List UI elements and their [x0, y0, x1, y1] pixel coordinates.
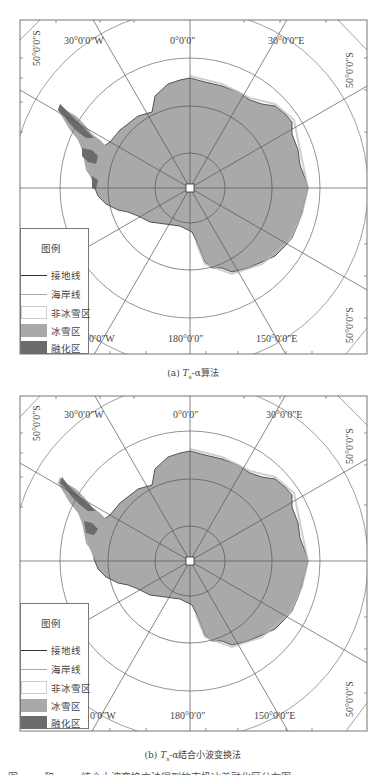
legend-item-ice: 冰雪区: [21, 698, 121, 712]
ice-swatch: [21, 324, 47, 337]
label-lon-30e: 30°0′0″E: [266, 410, 302, 420]
caption-b: (b) Ts-α结合小波变换法: [0, 748, 386, 762]
label-lat-50s-left: 50°0′0″S: [32, 405, 42, 441]
label-lon-0: 0°0′0″: [173, 410, 198, 420]
legend-title: 图例: [41, 241, 61, 255]
label-lon-30e: 30°0′0″E: [268, 36, 304, 46]
coastline-symbol: [21, 287, 47, 295]
label-lat-50s-bottom-right: 50°0′0″S: [345, 681, 355, 717]
label-lon-150e: 150°0′0″E: [254, 711, 295, 721]
label-lat-50s-bottom-right: 50°0′0″S: [345, 307, 355, 343]
coastline-symbol: [21, 662, 47, 670]
ice-swatch: [21, 699, 47, 712]
figure-a: 30°0′0″W 0°0′0″ 30°0′0″E 50°0′0″S 50°0′0…: [0, 0, 386, 380]
legend-item-melt: 融化区: [21, 340, 121, 354]
label-lon-0: 0°0′0″: [170, 36, 195, 46]
legend-title: 图例: [41, 616, 61, 630]
melt-swatch: [21, 341, 47, 354]
grounding-line-symbol: [21, 268, 47, 276]
label-lat-50s-right: 50°0′0″S: [345, 52, 355, 88]
legend-item-non-ice: 非冰雪区: [21, 680, 121, 694]
legend-item-coastline: 海岸线: [21, 286, 121, 300]
legend-item-grounding-line: 接地线: [21, 642, 121, 656]
legend-item-ice: 冰雪区: [21, 323, 121, 337]
melt-swatch: [21, 716, 47, 729]
grounding-line-symbol: [21, 643, 47, 651]
label-lon-30w: 30°0′0″W: [64, 36, 104, 46]
label-lat-50s-left: 50°0′0″S: [32, 30, 42, 66]
label-lon-180: 180°0′0″: [170, 711, 205, 721]
legend-item-coastline: 海岸线: [21, 661, 121, 675]
legend-a: 图例 接地线 海岸线 非冰雪区 冰雪区 融化区: [20, 228, 89, 354]
legend-item-melt: 融化区: [21, 715, 121, 729]
label-lon-180: 180°0′0″: [168, 334, 203, 344]
legend-item-grounding-line: 接地线: [21, 267, 121, 281]
figure-b: 30°0′0″W 0°0′0″ 30°0′0″E 50°0′0″S 50°0′0…: [0, 377, 386, 767]
legend-item-non-ice: 非冰雪区: [21, 305, 121, 319]
non-ice-swatch: [21, 681, 47, 694]
label-lat-50s-right: 50°0′0″S: [345, 428, 355, 464]
non-ice-swatch: [21, 306, 47, 319]
label-lon-30w: 30°0′0″W: [64, 410, 104, 420]
truncated-figure-caption: 图 …… 和 …… 结合小波变换方法得到的南极冰盖融化区分布图: [0, 766, 386, 775]
legend-b: 图例 接地线 海岸线 非冰雪区 冰雪区 融化区: [20, 603, 89, 729]
label-lon-150e: 150°0′0″E: [256, 334, 297, 344]
